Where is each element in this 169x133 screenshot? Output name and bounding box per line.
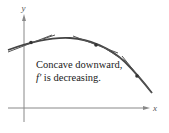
y-axis: y bbox=[21, 3, 27, 122]
caption-concave-downward: Concave downward, bbox=[36, 59, 122, 71]
tangency-point-2 bbox=[94, 43, 98, 47]
tangency-point-3 bbox=[135, 74, 139, 78]
x-axis-label: x bbox=[152, 103, 157, 113]
x-axis: x bbox=[8, 103, 157, 113]
x-axis-arrow-icon bbox=[143, 106, 150, 110]
tangency-point-1 bbox=[29, 41, 33, 45]
y-axis-label: y bbox=[21, 3, 26, 13]
y-axis-arrow-icon bbox=[22, 14, 26, 21]
caption-derivative-decreasing: f′ is decreasing. bbox=[36, 72, 101, 84]
caption-line2-text: is decreasing. bbox=[41, 72, 101, 83]
